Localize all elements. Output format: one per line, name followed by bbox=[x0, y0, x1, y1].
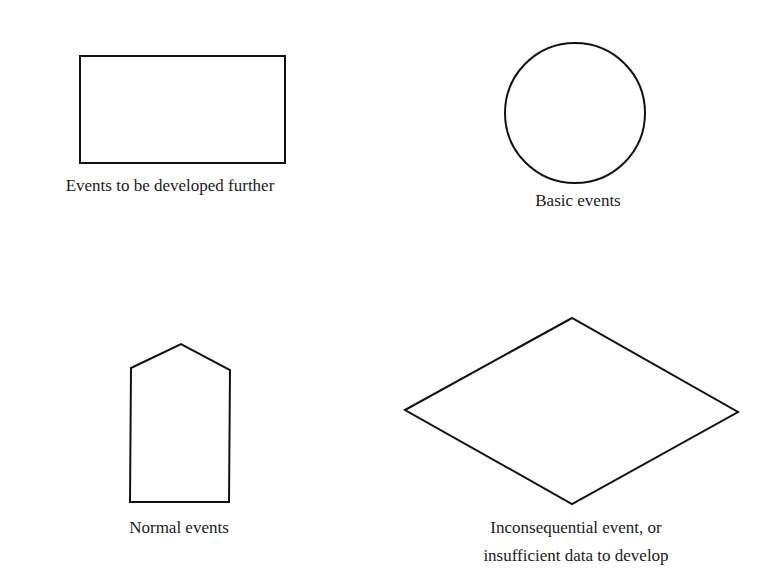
symbol-inconsequential-event: Inconsequential event, or insufficient d… bbox=[405, 318, 738, 565]
house-label: Normal events bbox=[129, 518, 229, 537]
rectangle-shape bbox=[80, 56, 285, 163]
symbol-basic-events: Basic events bbox=[505, 43, 645, 210]
rectangle-label: Events to be developed further bbox=[66, 176, 275, 195]
diamond-label-line-2: insufficient data to develop bbox=[483, 546, 668, 565]
symbol-normal-events: Normal events bbox=[129, 344, 230, 537]
house-shape bbox=[130, 344, 230, 502]
symbol-events-to-be-developed-further: Events to be developed further bbox=[66, 56, 285, 195]
circle-shape bbox=[505, 43, 645, 183]
fault-tree-symbols-diagram: Events to be developed further Basic eve… bbox=[0, 0, 770, 577]
diamond-label-line-1: Inconsequential event, or bbox=[490, 518, 662, 537]
circle-label: Basic events bbox=[535, 191, 620, 210]
diamond-shape bbox=[405, 318, 738, 504]
